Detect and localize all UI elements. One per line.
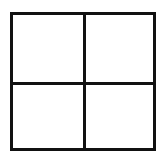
cell-label: [86, 15, 87, 16]
grid-cell-bottom-left: [13, 85, 83, 148]
two-by-two-grid: [10, 12, 156, 151]
horizontal-divider: [13, 82, 153, 85]
cell-label: [13, 85, 14, 86]
grid-cell-top-right: [86, 15, 153, 82]
cell-label: [13, 15, 14, 16]
grid-cell-top-left: [13, 15, 83, 82]
grid-cell-bottom-right: [86, 85, 153, 148]
cell-label: [86, 85, 87, 86]
